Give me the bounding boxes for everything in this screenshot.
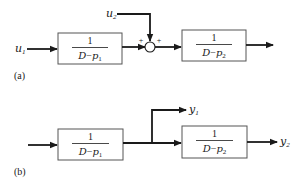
input-u2-label: u2: [106, 7, 117, 21]
u1-subscript: 1: [22, 48, 26, 56]
block-b2-denominator: D−p2: [202, 143, 227, 156]
y1-subscript: 1: [195, 109, 199, 117]
denominator-var: D: [201, 47, 210, 58]
output-y2-label: y2: [279, 135, 290, 149]
diagram-b-label: (b): [14, 166, 26, 178]
input-u1-label: u1: [15, 42, 26, 56]
diagram-a-label: (a): [14, 70, 25, 82]
branch-y1-arrow: [152, 110, 186, 143]
summing-circle: [145, 42, 155, 52]
block-b2: 1 D−p2: [182, 126, 247, 158]
diagram-a: u1 1 D−p1 u2 + + 1: [14, 7, 273, 82]
u2-symbol: u: [106, 7, 113, 20]
block-a1-denominator: D−p1: [77, 50, 102, 63]
denominator-sub: 1: [98, 55, 102, 63]
diagram-b: 1 D−p1 y1 1 D−p2 y2 (b): [14, 103, 290, 178]
sum-sign-left: +: [139, 36, 144, 45]
output-y1-label: y1: [188, 103, 199, 117]
y2-subscript: 2: [286, 141, 290, 149]
denominator-sub: 1: [99, 151, 103, 159]
denominator-var: D: [202, 143, 211, 154]
block-a2-denominator: D−p2: [201, 47, 226, 60]
block-diagram: u1 1 D−p1 u2 + + 1: [0, 0, 306, 182]
denominator-sub: 2: [222, 52, 226, 60]
u2-subscript: 2: [113, 13, 117, 21]
block-b1-numerator: 1: [88, 131, 93, 142]
denominator-sub: 2: [223, 148, 227, 156]
sum-sign-right: +: [157, 36, 162, 45]
block-a1-numerator: 1: [88, 35, 93, 46]
block-b1: 1 D−p1: [58, 129, 123, 160]
block-a2-numerator: 1: [212, 32, 217, 43]
block-a2: 1 D−p2: [182, 30, 246, 61]
denominator-var: D: [77, 50, 86, 61]
block-b1-denominator: D−p1: [78, 146, 103, 159]
denominator-var: D: [78, 146, 87, 157]
block-b2-numerator: 1: [212, 128, 217, 139]
u1-symbol: u: [15, 42, 22, 55]
block-a1: 1 D−p1: [58, 33, 122, 64]
